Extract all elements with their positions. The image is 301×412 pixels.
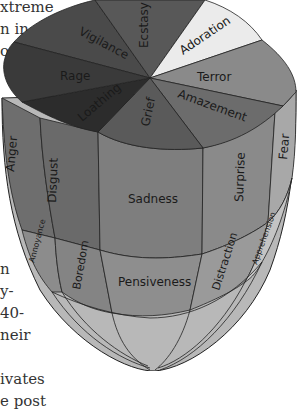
label-sadness: Sadness — [128, 192, 178, 206]
label-terror: Terror — [196, 70, 231, 84]
text-line: e post — [0, 390, 46, 412]
label-fear: Fear — [276, 133, 292, 160]
label-rage: Rage — [60, 69, 90, 83]
label-disgust: Disgust — [45, 157, 61, 203]
label-ecstasy: Ecstasy — [137, 2, 151, 48]
label-surprise: Surprise — [232, 152, 248, 202]
text-line: ivates — [0, 368, 46, 390]
label-pensiveness: Pensiveness — [118, 275, 191, 289]
